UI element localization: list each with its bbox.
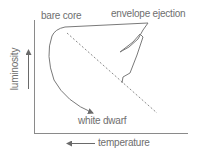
diagram-canvas: [0, 0, 201, 154]
envelope-ejection-label: envelope ejection: [111, 9, 185, 19]
bare-core-label: bare core: [41, 11, 81, 21]
evolutionary-track: [49, 23, 148, 113]
hr-diagram: bare core envelope ejection white dwarf …: [0, 0, 201, 154]
x-axis-label: temperature: [98, 138, 150, 148]
main-sequence-dashed-line: [67, 33, 157, 113]
white-dwarf-label: white dwarf: [78, 116, 126, 126]
y-axis-label: luminosity: [10, 45, 20, 93]
